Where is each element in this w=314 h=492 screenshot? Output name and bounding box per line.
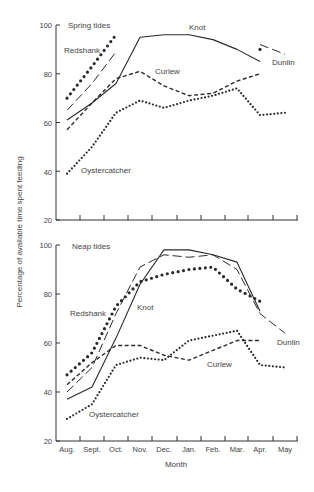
top-label-knot: Knot (189, 23, 206, 32)
x-tick-label: Dec. (156, 445, 171, 454)
series-line-oystercatcher (67, 88, 285, 173)
top-ytick-40: 40 (44, 168, 52, 177)
series-line-oystercatcher (67, 331, 285, 419)
x-tick-label: Oct. (109, 445, 123, 454)
x-tick-label: Sept. (83, 445, 101, 454)
y-axis-label: Percentage of available time spent feedi… (15, 156, 24, 307)
feeding-time-chart: Percentage of available time spent feedi… (0, 0, 314, 492)
x-tick-label: Nov. (133, 445, 148, 454)
series-line-knot (67, 250, 260, 399)
top-panel-lines (67, 35, 285, 174)
top-label-redshank: Redshank (64, 46, 101, 55)
bottom-ytick-40: 40 (44, 388, 52, 397)
x-tick-label: May (278, 445, 292, 454)
bottom-ytick-80: 80 (44, 290, 52, 299)
top-label-dunlin: Dunlin (272, 58, 295, 67)
x-tick-label: Aug. (59, 445, 74, 454)
top-ytick-100: 100 (39, 21, 52, 30)
bottom-label-redshank: Redshank (70, 309, 107, 318)
x-tick-labels: Aug.Sept.Oct.Nov.Dec.Jan.Feb.Mar.Apr.May (59, 445, 292, 454)
bottom-ytick-100: 100 (39, 241, 52, 250)
series-point-redshank (258, 48, 261, 51)
series-line-dunlin (260, 45, 285, 55)
top-label-oystercatcher: Oystercatcher (81, 166, 131, 175)
x-axis-label: Month (165, 460, 187, 469)
bottom-panel-title: Neap tides (72, 242, 110, 251)
x-tick-label: Feb. (205, 445, 220, 454)
bottom-label-knot: Knot (137, 303, 154, 312)
top-ytick-60: 60 (44, 119, 52, 128)
series-line-curlew (67, 71, 260, 130)
x-tick-label: Mar. (230, 445, 245, 454)
bottom-ytick-60: 60 (44, 339, 52, 348)
top-ytick-20: 20 (44, 216, 52, 225)
series-line-dunlin (67, 52, 116, 111)
top-ytick-80: 80 (44, 70, 52, 79)
bottom-label-oystercatcher: Oystercatcher (89, 410, 139, 419)
top-panel-title: Spring tides (68, 21, 110, 30)
bottom-label-dunlin: Dunlin (277, 338, 300, 347)
bottom-panel-lines (67, 250, 285, 419)
top-label-curlew: Curlew (155, 67, 180, 76)
bottom-label-curlew: Curlew (207, 360, 232, 369)
series-line-redshank (67, 35, 116, 98)
x-tick-label: Apr. (253, 445, 266, 454)
bottom-ytick-20: 20 (44, 437, 52, 446)
x-tick-label: Jan. (182, 445, 196, 454)
